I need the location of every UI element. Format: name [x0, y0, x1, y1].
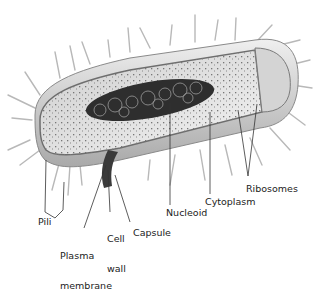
label-cytoplasm: Cytoplasm: [205, 197, 256, 207]
label-ribosomes: Ribosomes: [246, 184, 298, 194]
label-plasma-membrane-line1: Plasma: [60, 251, 112, 261]
label-cell-wall-line1: Cell: [107, 234, 126, 244]
label-cell-wall-line2: wall: [107, 264, 126, 274]
label-cell-wall: Cell wall: [107, 214, 126, 284]
label-capsule: Capsule: [133, 228, 171, 238]
label-pili: Pili: [38, 217, 51, 227]
label-plasma-membrane-line2: membrane: [60, 281, 112, 291]
label-plasma-membrane: Plasma membrane: [60, 231, 112, 293]
label-nucleoid: Nucleoid: [166, 208, 207, 218]
